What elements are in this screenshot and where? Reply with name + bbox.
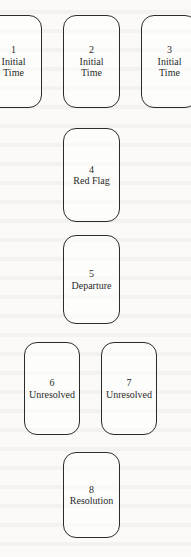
card-label: Unresolved	[29, 389, 75, 401]
card-label: Resolution	[70, 495, 113, 507]
card-number: 1	[11, 44, 16, 56]
card-label: Initial Time	[80, 56, 104, 79]
card-label: Initial Time	[2, 56, 26, 79]
card-8: 8 Resolution	[63, 452, 120, 538]
card-label: Departure	[72, 280, 112, 292]
card-3: 3 Initial Time	[141, 15, 191, 108]
card-5: 5 Departure	[63, 235, 120, 324]
card-label: Initial Time	[158, 56, 182, 79]
card-6: 6 Unresolved	[24, 342, 80, 435]
card-number: 3	[167, 44, 172, 56]
card-number: 2	[89, 44, 94, 56]
card-number: 4	[89, 164, 94, 176]
card-label: Unresolved	[106, 389, 152, 401]
card-number: 8	[89, 484, 94, 496]
card-4: 4 Red Flag	[63, 128, 120, 222]
card-1: 1 Initial Time	[0, 15, 42, 108]
card-number: 6	[50, 377, 55, 389]
card-number: 5	[89, 268, 94, 280]
card-7: 7 Unresolved	[101, 342, 157, 435]
card-2: 2 Initial Time	[63, 15, 120, 108]
card-number: 7	[127, 377, 132, 389]
card-label: Red Flag	[73, 175, 109, 187]
